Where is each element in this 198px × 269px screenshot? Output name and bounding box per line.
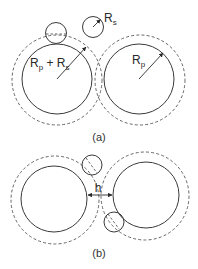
panel-b-caption: (b) (92, 247, 105, 259)
left-exclusion-zone-dashed-circle (12, 35, 102, 125)
panel-b: h (b) (11, 152, 189, 259)
panel-a: Rs Rp + Rs Rp (a) (12, 11, 185, 143)
small-radius-arrow (93, 20, 101, 28)
left-radius-label: Rp + Rs (30, 56, 69, 72)
small-radius-label: Rs (104, 11, 117, 27)
diagram-svg: Rs Rp + Rs Rp (a) h (b) (0, 0, 198, 269)
small-sphere-circle-left (46, 23, 67, 44)
gap-label: h (95, 181, 102, 195)
figure-canvas: Rs Rp + Rs Rp (a) h (b) (0, 0, 198, 269)
right-radius-label: Rp (132, 53, 146, 69)
left-particle-circle-b (21, 166, 87, 232)
panel-a-caption: (a) (92, 131, 105, 143)
right-exclusion-zone-dashed-circle (95, 35, 185, 125)
small-sphere-diameter-top-b (86, 158, 97, 173)
right-exclusion-zone-dashed-circle-b (101, 152, 189, 240)
small-sphere-circle-top-b (82, 155, 102, 175)
left-exclusion-zone-dashed-circle-b (11, 156, 99, 244)
